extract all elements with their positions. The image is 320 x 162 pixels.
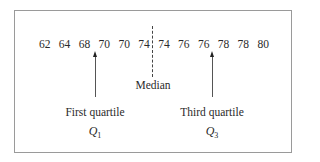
q1-arrow-icon: [95, 56, 96, 97]
value: 70: [99, 37, 111, 51]
q1-symbol: Q1: [80, 124, 110, 143]
value: 80: [257, 37, 269, 51]
data-values: 62 64 68 70 70 74 74 76 76 78 78 80: [39, 37, 269, 51]
value: 64: [59, 37, 71, 51]
value: 62: [39, 37, 51, 51]
value: 76: [178, 37, 190, 51]
value: 76: [198, 37, 210, 51]
q3-subscript: 3: [214, 131, 218, 140]
median-dashed-line: [152, 26, 153, 77]
q3-symbol: Q3: [197, 124, 227, 143]
median-label: Median: [128, 78, 178, 92]
value: 74: [158, 37, 170, 51]
value: 68: [79, 37, 91, 51]
value: 70: [118, 37, 130, 51]
value: 78: [218, 37, 230, 51]
q3-arrow-icon: [212, 56, 213, 97]
third-quartile-label: Third quartile: [169, 105, 255, 119]
first-quartile-label: First quartile: [55, 105, 135, 119]
value: 74: [138, 37, 150, 51]
value: 78: [238, 37, 250, 51]
q1-subscript: 1: [97, 131, 101, 140]
